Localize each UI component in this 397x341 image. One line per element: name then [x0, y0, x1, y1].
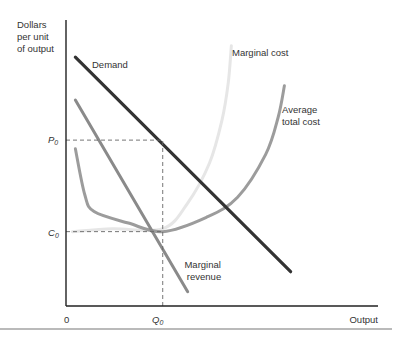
marginal-cost-label: Marginal cost [232, 47, 289, 58]
average-total-cost-label: Average total cost [282, 104, 320, 127]
marginal-cost-curve [72, 46, 231, 232]
marginal-revenue-label-line-2: revenue [187, 271, 221, 282]
y-axis-label-line-2: per unit [17, 31, 49, 42]
p0-tick-subscript: 0 [54, 139, 58, 146]
p0-tick-label: P0 [48, 134, 58, 146]
demand-curve [75, 57, 290, 272]
marginal-revenue-curve [75, 100, 187, 292]
marginal-revenue-label-line-1: Marginal [184, 259, 220, 270]
monopoly-profit-diagram: Dollars per unit of output 0 Output Q0 P… [0, 0, 397, 341]
demand-label: Demand [92, 59, 128, 70]
c0-tick-label: C0 [48, 227, 59, 239]
marginal-revenue-label: Marginal revenue [184, 259, 223, 282]
y-axis-label-line-1: Dollars [17, 19, 47, 30]
origin-label: 0 [64, 314, 69, 325]
x-axis-label: Output [349, 314, 378, 325]
y-axis-label-line-3: of output [17, 43, 54, 54]
average-total-cost-label-line-1: Average [282, 104, 317, 115]
average-total-cost-label-line-2: total cost [282, 116, 320, 127]
q0-tick-label: Q0 [152, 314, 163, 326]
average-total-cost-curve [75, 86, 284, 232]
y-axis-label: Dollars per unit of output [17, 19, 54, 54]
q0-tick-subscript: 0 [159, 319, 163, 326]
c0-tick-subscript: 0 [55, 232, 59, 239]
